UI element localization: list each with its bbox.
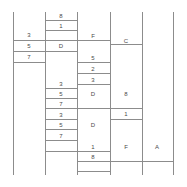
horizontal-rung-line [110,44,142,45]
cell-label: 5 [91,55,94,61]
cell-label: 3 [27,32,30,38]
cell-label: 8 [91,154,94,160]
horizontal-rung-line [77,84,110,85]
horizontal-rung-line [45,119,77,120]
vertical-line [142,12,143,175]
horizontal-rung-line [77,62,110,63]
horizontal-rung-line [77,161,173,162]
horizontal-rung-line [13,62,45,63]
horizontal-rung-line [77,171,110,172]
horizontal-rung-line [110,119,142,120]
cell-label: 2 [91,66,94,72]
horizontal-rung-line [45,140,77,141]
horizontal-rung-line [45,30,77,31]
cell-label: D [91,122,95,128]
ladder-diagram-canvas: 813F5DC752335D87315D71FA8 [0,0,187,187]
cell-label: 3 [59,112,62,118]
cell-label: D [91,91,95,97]
cell-label: D [59,43,63,49]
cell-label: 8 [124,91,127,97]
horizontal-rung-line [45,40,110,41]
cell-label: F [91,33,95,39]
cell-label: 7 [27,54,30,60]
cell-label: 8 [59,13,62,19]
vertical-line [13,12,14,175]
cell-label: 3 [59,81,62,87]
horizontal-rung-line [45,98,77,99]
horizontal-rung-line [45,20,77,21]
cell-label: C [124,38,128,44]
cell-label: F [124,144,128,150]
cell-label: 7 [59,101,62,107]
horizontal-rung-line [45,151,110,152]
horizontal-rung-line [77,73,110,74]
cell-label: 1 [59,23,62,29]
horizontal-rung-line [13,40,45,41]
cell-label: 7 [59,133,62,139]
cell-label: 5 [59,91,62,97]
horizontal-rung-line [45,88,77,89]
cell-label: 5 [27,43,30,49]
horizontal-rung-line [45,129,77,130]
horizontal-rung-line [13,51,77,52]
horizontal-rung-line [45,108,142,109]
cell-label: 3 [91,77,94,83]
cell-label: 5 [59,122,62,128]
vertical-line [110,12,111,175]
vertical-line [173,12,174,175]
cell-label: A [155,144,159,150]
cell-label: 1 [124,111,127,117]
cell-label: 1 [91,144,94,150]
